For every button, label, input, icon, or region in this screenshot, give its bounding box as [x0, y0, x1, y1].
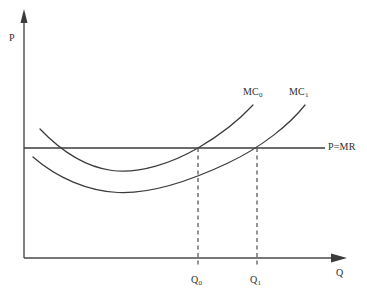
price-axis-label: P	[9, 33, 15, 43]
mc0-label-text: MC	[243, 86, 259, 97]
figure-canvas	[0, 0, 367, 301]
q0-axis-label: Q0	[191, 275, 202, 285]
price-mr-label: P=MR	[328, 142, 356, 152]
price-axis-label-text: P	[9, 32, 15, 43]
quantity-axis-arrow-icon	[331, 254, 347, 263]
q1-label-subscript: 1	[257, 279, 261, 287]
mc0-label-subscript: 0	[259, 91, 263, 99]
mc1-label-subscript: 1	[305, 91, 309, 99]
mc0-curve-label: MC0	[243, 87, 263, 97]
mc1-curve-label: MC1	[289, 87, 309, 97]
q0-label-subscript: 0	[198, 279, 202, 287]
quantity-axis-label-text: Q	[336, 267, 343, 278]
q1-axis-label: Q1	[250, 275, 261, 285]
economics-figure: P Q MC0 MC1 P=MR Q0 Q1	[0, 0, 367, 301]
mc1-curve	[33, 105, 305, 193]
price-axis-arrow-icon	[21, 9, 28, 23]
quantity-axis-label: Q	[336, 268, 343, 278]
price-mr-label-text: P=MR	[328, 141, 356, 152]
mc0-curve	[40, 105, 253, 171]
mc1-label-text: MC	[289, 86, 305, 97]
